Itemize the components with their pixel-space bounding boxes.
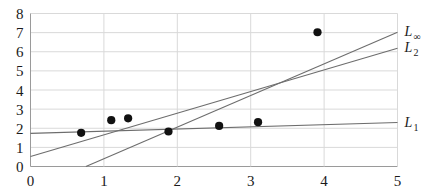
data-point	[107, 116, 115, 124]
series-label-text: L	[404, 24, 413, 39]
y-axis-tick-label: 3	[16, 102, 24, 118]
y-axis-tick-label: 4	[16, 83, 24, 99]
x-axis-tick-label: 3	[247, 173, 255, 189]
scatter-plot-figure: 012345678012345L∞L2L1	[0, 0, 427, 195]
series-label-text: L	[404, 115, 413, 130]
x-axis-tick-label: 2	[174, 173, 182, 189]
x-axis-tick-label: 4	[320, 173, 328, 189]
data-point	[77, 129, 85, 137]
data-point	[254, 118, 262, 126]
y-axis-tick-label: 7	[16, 25, 24, 41]
fit-line-L_2	[31, 48, 398, 156]
series-label-subscript: ∞	[414, 31, 421, 42]
data-point	[164, 127, 172, 135]
x-axis-tick-label: 1	[100, 173, 108, 189]
y-axis-tick-label: 6	[16, 44, 24, 60]
y-axis-tick-label: 0	[16, 159, 24, 175]
y-axis-tick-label: 5	[16, 63, 24, 79]
data-point	[215, 122, 223, 130]
series-label-L_2: L2	[404, 40, 419, 58]
x-axis-tick-label: 5	[394, 173, 402, 189]
series-label-subscript: 2	[414, 47, 419, 58]
chart-canvas: 012345678012345L∞L2L1	[0, 0, 427, 195]
y-axis-tick-label: 2	[16, 121, 24, 137]
fit-line-L_infinity	[86, 32, 398, 166]
y-axis-tick-label: 1	[16, 140, 24, 156]
data-point	[124, 114, 132, 122]
x-axis-tick-label: 0	[27, 173, 35, 189]
data-point	[313, 28, 321, 36]
y-axis-tick-label: 8	[16, 6, 24, 22]
series-label-subscript: 1	[414, 122, 419, 133]
series-label-L_1: L1	[404, 115, 419, 133]
series-label-text: L	[404, 40, 413, 55]
